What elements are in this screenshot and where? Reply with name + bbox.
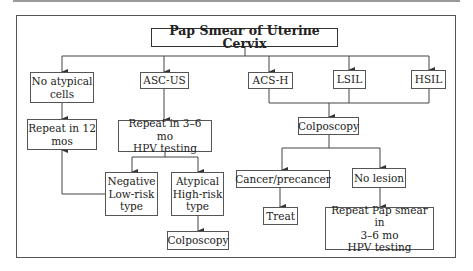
colposcopy-right-box: Colposcopy xyxy=(298,117,359,135)
no-atypical-cells-box: No atypical cells xyxy=(30,72,94,103)
repeat-pap-smear-box: Repeat Pap smear in 3–6 mo HPV testing xyxy=(325,207,434,250)
repeat-12-mos-box: Repeat in 12 mos xyxy=(27,119,97,150)
no-lesion-box: No lesion xyxy=(352,168,406,188)
title-box: Pap Smear of Uterine Cervix xyxy=(151,28,338,47)
hsil-box: HSIL xyxy=(411,70,446,89)
asc-us-box: ASC-US xyxy=(140,72,189,89)
atypical-high-risk-box: Atypical High-risk type xyxy=(171,172,224,216)
colposcopy-left-box: Colposcopy xyxy=(167,231,229,250)
repeat-hpv-testing-box: Repeat in 3–6 mo HPV testing xyxy=(118,120,212,152)
lsil-box: LSIL xyxy=(333,70,366,89)
treat-box: Treat xyxy=(263,207,298,225)
negative-low-risk-box: Negative Low-risk type xyxy=(105,172,158,216)
acs-h-box: ACS-H xyxy=(248,72,293,89)
cancer-precancer-box: Cancer/precancer xyxy=(236,170,330,188)
